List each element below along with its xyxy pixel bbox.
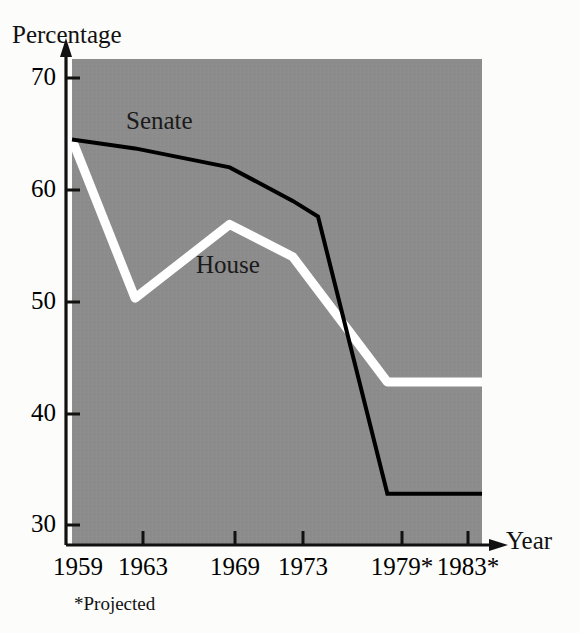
y-tick-label-50: 50: [8, 288, 56, 313]
series-label-senate: Senate: [126, 108, 193, 133]
x-tick-label-1963: 1963: [95, 554, 191, 579]
series-label-house: House: [196, 252, 260, 277]
y-tick-label-40: 40: [8, 400, 56, 425]
footnote-projected: *Projected: [74, 594, 155, 613]
chart-figure: Percentage Year 70 60 50 40 30 1959 1963…: [0, 0, 580, 633]
y-tick-label-70: 70: [8, 64, 56, 89]
y-axis-title: Percentage: [12, 22, 122, 47]
y-tick-label-30: 30: [8, 511, 56, 536]
x-axis-title: Year: [506, 528, 552, 553]
y-tick-label-60: 60: [8, 176, 56, 201]
x-tick-label-1983: 1983*: [414, 554, 522, 579]
x-tick-label-1973: 1973: [255, 554, 351, 579]
line-chart-plot: [0, 0, 580, 633]
